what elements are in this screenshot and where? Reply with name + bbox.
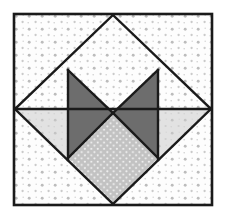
block-interior: [14, 14, 212, 205]
quilt-block-canvas: [0, 0, 228, 219]
quilt-block-figure: [0, 0, 228, 219]
